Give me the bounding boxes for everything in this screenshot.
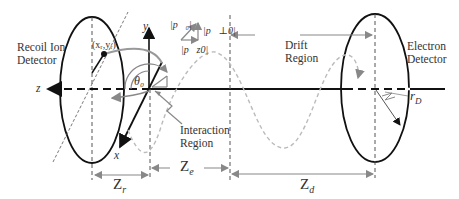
- p0-label: |p⃗₀|: [170, 18, 192, 31]
- label-line: Region: [285, 52, 318, 65]
- ze-dimension: Ze: [180, 160, 194, 178]
- x-axis-label: x: [114, 149, 119, 162]
- zr-dimension: Zr: [113, 178, 126, 196]
- label-line: Electron: [407, 40, 447, 53]
- electron-detector-label: Electron Detector: [407, 40, 447, 66]
- ze-sub: e: [189, 166, 193, 177]
- interaction-region-label: Interaction Region: [180, 124, 230, 150]
- ze-main: Z: [180, 158, 189, 174]
- zr-sub: r: [122, 184, 126, 195]
- hit-position-label: (xᵣ,yᵣ): [92, 38, 116, 51]
- label-line: Recoil Ion: [17, 41, 65, 54]
- p-perp0-label: |p⃗⊥0|: [203, 24, 236, 37]
- label-line: Interaction: [180, 124, 230, 137]
- zr-main: Z: [113, 176, 122, 192]
- drift-region-label: Drift Region: [285, 39, 318, 65]
- label-line: Drift: [285, 39, 318, 52]
- label-line: Detector: [17, 54, 65, 67]
- zd-main: Z: [300, 176, 309, 192]
- electron-trajectory: [128, 52, 358, 153]
- z-axis-label: z: [36, 82, 40, 95]
- theta-label: θ₀: [134, 75, 144, 88]
- y-axis-label: y: [143, 20, 148, 33]
- label-line: Region: [180, 137, 230, 150]
- zd-dimension: Zd: [300, 178, 314, 196]
- label-line: Detector: [407, 53, 447, 66]
- pz0-label: |p⃗z0|: [181, 43, 208, 56]
- rd-sub: D: [415, 96, 422, 106]
- zd-sub: d: [309, 184, 314, 195]
- rd-label: rD: [410, 89, 422, 108]
- recoil-ion-detector-label: Recoil Ion Detector: [17, 41, 65, 67]
